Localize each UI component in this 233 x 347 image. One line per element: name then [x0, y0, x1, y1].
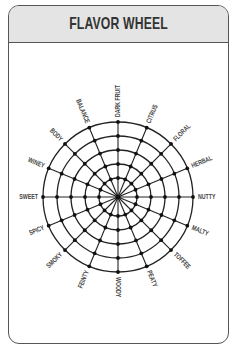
wheel-node[interactable]: [130, 209, 134, 213]
wheel-node[interactable]: [139, 172, 143, 176]
wheel-node[interactable]: [116, 242, 120, 246]
wheel-node[interactable]: [149, 195, 153, 199]
wheel-node[interactable]: [87, 126, 91, 130]
wheel-node[interactable]: [149, 228, 153, 232]
wheel-spoke: [65, 144, 118, 197]
flavor-label-smoky: SMOKY: [44, 250, 64, 270]
wheel-node[interactable]: [116, 120, 120, 124]
wheel-node[interactable]: [98, 152, 102, 156]
wheel-node[interactable]: [73, 177, 77, 181]
wheel-node[interactable]: [123, 178, 127, 182]
wheel-node[interactable]: [159, 238, 163, 242]
wheel-node[interactable]: [191, 195, 195, 199]
wheel-node[interactable]: [177, 195, 181, 199]
wheel-node[interactable]: [98, 239, 102, 243]
flavor-label-toffee: TOFFEE: [173, 250, 193, 270]
wheel-node[interactable]: [134, 152, 138, 156]
wheel-node[interactable]: [139, 139, 143, 143]
flavor-label-body: BODY: [49, 126, 66, 143]
wheel-node[interactable]: [103, 226, 107, 230]
wheel-node[interactable]: [47, 224, 51, 228]
wheel-node[interactable]: [116, 214, 120, 218]
wheel-node[interactable]: [60, 218, 64, 222]
wheel-node[interactable]: [73, 213, 77, 217]
wheel-node[interactable]: [185, 166, 189, 170]
wheel-node[interactable]: [69, 195, 73, 199]
wheel-node[interactable]: [134, 188, 138, 192]
wheel-node[interactable]: [130, 182, 134, 186]
wheel-node[interactable]: [134, 239, 138, 243]
wheel-node[interactable]: [97, 195, 101, 199]
wheel-node[interactable]: [93, 139, 97, 143]
wheel-node[interactable]: [147, 208, 151, 212]
flavor-label-winey: WINEY: [27, 155, 47, 169]
wheel-node[interactable]: [73, 238, 77, 242]
wheel-node[interactable]: [169, 248, 173, 252]
wheel-node[interactable]: [83, 162, 87, 166]
wheel-spoke: [65, 197, 118, 250]
wheel-node[interactable]: [86, 182, 90, 186]
wheel-node[interactable]: [73, 152, 77, 156]
wheel-node[interactable]: [129, 226, 133, 230]
wheel-node[interactable]: [55, 195, 59, 199]
wheel-node[interactable]: [116, 256, 120, 260]
wheel-node[interactable]: [63, 142, 67, 146]
wheel-node[interactable]: [145, 126, 149, 130]
wheel-node[interactable]: [103, 165, 107, 169]
wheel-center-node: [116, 195, 121, 200]
wheel-node[interactable]: [93, 172, 97, 176]
wheel-spoke: [118, 144, 171, 197]
wheel-node[interactable]: [109, 178, 113, 182]
flavor-label-peaty: PEATY: [146, 269, 160, 288]
wheel-node[interactable]: [135, 195, 139, 199]
wheel-node[interactable]: [116, 176, 120, 180]
wheel-node[interactable]: [134, 202, 138, 206]
wheel-node[interactable]: [87, 264, 91, 268]
wheel-node[interactable]: [60, 172, 64, 176]
wheel-node[interactable]: [129, 165, 133, 169]
wheel-node[interactable]: [116, 270, 120, 274]
wheel-node[interactable]: [116, 228, 120, 232]
wheel-node[interactable]: [63, 248, 67, 252]
wheel-node[interactable]: [145, 264, 149, 268]
wheel-node[interactable]: [109, 213, 113, 217]
wheel-node[interactable]: [86, 208, 90, 212]
flavor-label-herbal: HERBAL: [190, 153, 213, 169]
wheel-node[interactable]: [99, 202, 103, 206]
wheel-node[interactable]: [169, 142, 173, 146]
wheel-node[interactable]: [41, 195, 45, 199]
wheel-node[interactable]: [116, 162, 120, 166]
wheel-node[interactable]: [93, 251, 97, 255]
flavor-label-dark-fruit: DARK FRUIT: [113, 85, 121, 117]
flavor-label-balance: BALANCE: [75, 98, 92, 125]
wheel-node[interactable]: [103, 182, 107, 186]
flavor-label-feinty: FEINTY: [76, 268, 91, 289]
wheel-node[interactable]: [103, 209, 107, 213]
wheel-node[interactable]: [116, 134, 120, 138]
wheel-node[interactable]: [185, 224, 189, 228]
flavor-label-woody: WOODY: [115, 277, 123, 298]
wheel-node[interactable]: [83, 228, 87, 232]
wheel-node[interactable]: [139, 218, 143, 222]
wheel-node[interactable]: [147, 182, 151, 186]
flavor-label-citrus: CITRUS: [144, 103, 159, 124]
wheel-node[interactable]: [159, 152, 163, 156]
wheel-node[interactable]: [139, 251, 143, 255]
wheel-node[interactable]: [160, 177, 164, 181]
wheel-node[interactable]: [93, 218, 97, 222]
wheel-node[interactable]: [123, 213, 127, 217]
flavor-wheel[interactable]: DARK FRUITCITRUSFLORALHERBALNUTTYMALTYTO…: [0, 0, 233, 347]
wheel-spoke: [118, 197, 171, 250]
wheel-node[interactable]: [163, 195, 167, 199]
flavor-label-sweet: SWEET: [19, 192, 38, 200]
wheel-node[interactable]: [83, 195, 87, 199]
flavor-label-spicy: SPICY: [28, 223, 46, 237]
wheel-node[interactable]: [99, 188, 103, 192]
wheel-node[interactable]: [160, 213, 164, 217]
wheel-node[interactable]: [172, 218, 176, 222]
wheel-node[interactable]: [172, 172, 176, 176]
wheel-node[interactable]: [47, 166, 51, 170]
wheel-node[interactable]: [116, 148, 120, 152]
wheel-node[interactable]: [149, 162, 153, 166]
flavor-label-malty: MALTY: [191, 223, 211, 237]
